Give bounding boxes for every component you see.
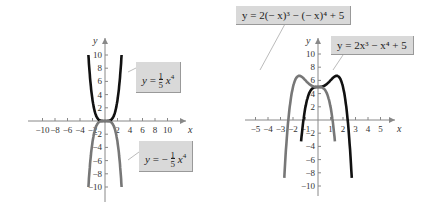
y-tick-label: 2 [311, 102, 316, 112]
charts-canvas: xy−10−8−6−4−2246810−10−8−6−4−2246810xy−5… [0, 0, 439, 213]
y-tick-label: −4 [305, 141, 315, 151]
fraction: 15 [159, 72, 164, 90]
x-tick-label: 4 [366, 124, 371, 134]
x-axis-arrow-icon [389, 117, 395, 123]
x-tick-label: −5 [251, 124, 261, 134]
label-left-bottom: y = − 15 x4 [139, 141, 193, 172]
x-tick-label: 4 [128, 125, 133, 135]
y-tick-label: 6 [311, 75, 316, 85]
y-axis-label: y [92, 35, 98, 46]
x-tick-label: −4 [263, 124, 273, 134]
x-tick-label: −4 [75, 125, 85, 135]
leader-line [128, 152, 139, 160]
x-tick-label: −6 [63, 125, 73, 135]
x-axis-label: x [187, 124, 193, 135]
fraction: 15 [171, 151, 176, 169]
leader-line [128, 68, 136, 72]
denominator: 5 [171, 158, 176, 169]
y-tick-label: −8 [92, 169, 102, 179]
y-tick-label: 10 [306, 49, 316, 59]
y-tick-label: −4 [92, 142, 102, 152]
y-axis-arrow-icon [102, 38, 108, 44]
x-tick-label: 5 [378, 124, 383, 134]
y-tick-label: −6 [305, 155, 315, 165]
y-tick-label: 10 [93, 50, 103, 60]
label-right-mid: y = 2x³ − x⁴ + 5 [331, 36, 414, 55]
denominator: 5 [159, 79, 164, 90]
x-tick-label: 2 [341, 124, 346, 134]
leader-line [260, 24, 285, 70]
x-axis-label: x [396, 123, 402, 134]
exponent: 4 [183, 152, 187, 160]
y-tick-label: −10 [301, 181, 316, 191]
label-y: y [145, 153, 150, 165]
x-tick-label: −10 [35, 125, 50, 135]
y-tick-label: 8 [311, 62, 316, 72]
y-axis-arrow-icon [315, 38, 321, 44]
y-tick-label: −6 [92, 156, 102, 166]
x-tick-label: −2 [288, 124, 298, 134]
chart-1: xy−10−8−6−4−2246810−10−8−6−4−2246810 [28, 35, 193, 202]
y-tick-label: −2 [305, 128, 315, 138]
x-tick-label: 8 [153, 125, 158, 135]
x-tick-label: 6 [140, 125, 145, 135]
y-tick-label: 2 [98, 103, 103, 113]
x-axis-arrow-icon [180, 118, 186, 124]
y-tick-label: −8 [305, 168, 315, 178]
x-tick-label: 3 [353, 124, 358, 134]
y-axis-label: y [305, 35, 311, 46]
label-left-top: y = 15 x4 [136, 62, 181, 93]
label-right-top: y = 2(− x)³ − (− x)⁴ + 5 [236, 6, 351, 25]
y-tick-label: −10 [88, 182, 103, 192]
x-tick-label: −8 [50, 125, 60, 135]
label-y: y [142, 74, 147, 86]
x-tick-label: 10 [163, 125, 173, 135]
y-tick-label: 4 [98, 90, 103, 100]
y-tick-label: 8 [98, 63, 103, 73]
y-tick-label: 6 [98, 76, 103, 86]
x-tick-label: −3 [276, 124, 286, 134]
exponent: 4 [171, 73, 175, 81]
chart-2: xy−5−4−3−2−112345−10−8−6−4−2246810 [245, 35, 402, 196]
